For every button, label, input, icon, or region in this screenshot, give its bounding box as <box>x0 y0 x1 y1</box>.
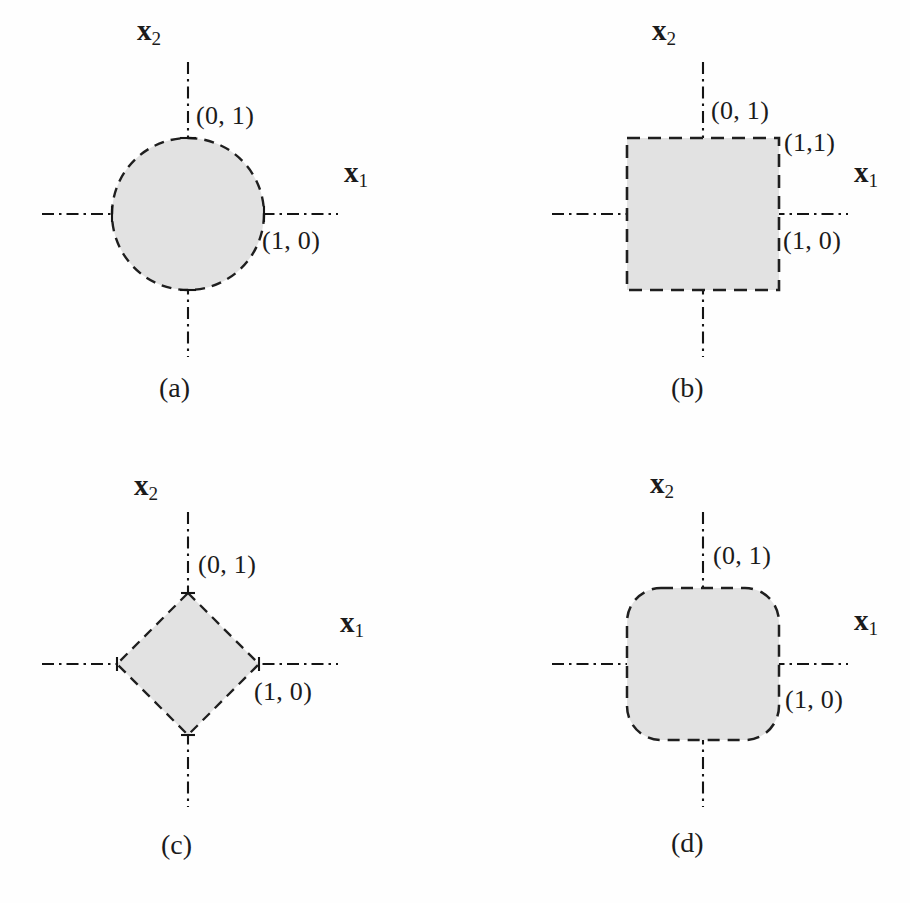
annotation-point-1-0: (1, 0) <box>785 687 843 713</box>
annotation-point-1-0: (1, 0) <box>783 228 841 254</box>
x-axis-label-text: x <box>340 606 355 638</box>
panel-c: x2 x1 (0, 1) (1, 0) (c) <box>0 451 455 903</box>
x-axis-label: x1 <box>854 606 878 638</box>
panel-c-plot <box>0 451 455 903</box>
panel-c-caption: (c) <box>161 831 192 859</box>
y-axis-label: x2 <box>652 16 676 48</box>
panel-b: x2 x1 (0, 1) (1,1) (1, 0) (b) <box>455 0 910 452</box>
annotation-point-1-1: (1,1) <box>784 130 835 156</box>
annotation-point-0-1: (0, 1) <box>196 103 254 129</box>
x-axis-label: x1 <box>340 608 364 640</box>
y-axis-label-text: x <box>652 14 667 46</box>
panel-a: x2 x1 (0, 1) (1, 0) (a) <box>0 0 455 452</box>
y-axis-label-subscript: 2 <box>665 481 675 502</box>
x-axis-label-text: x <box>854 156 869 188</box>
y-axis-label-text: x <box>650 467 665 499</box>
panel-b-caption: (b) <box>671 374 704 402</box>
panel-a-caption: (a) <box>159 374 190 402</box>
panel-d: x2 x1 (0, 1) (1, 0) (d) <box>455 451 910 903</box>
y-axis-label: x2 <box>650 469 674 501</box>
x-axis-label-text: x <box>344 156 359 188</box>
y-axis-label-subscript: 2 <box>667 28 677 49</box>
panel-d-caption: (d) <box>671 829 704 857</box>
x-axis-label-text: x <box>854 604 869 636</box>
y-axis-label-subscript: 2 <box>152 28 162 49</box>
x-axis-label: x1 <box>344 158 368 190</box>
y-axis-label-text: x <box>134 469 149 501</box>
unit-diamond-region <box>117 593 259 735</box>
x-axis-label-subscript: 1 <box>355 620 365 641</box>
unit-square-region <box>627 138 779 290</box>
panel-a-plot <box>0 0 455 452</box>
y-axis-label: x2 <box>134 471 158 503</box>
y-axis-label: x2 <box>137 16 161 48</box>
x-axis-label: x1 <box>854 158 878 190</box>
y-axis-label-text: x <box>137 14 152 46</box>
annotation-point-0-1: (0, 1) <box>198 552 256 578</box>
annotation-point-0-1: (0, 1) <box>713 543 771 569</box>
lp-norm-unit-balls-figure: x2 x1 (0, 1) (1, 0) (a) x2 x1 (0, 1) (1,… <box>0 0 910 903</box>
x-axis-label-subscript: 1 <box>869 618 879 639</box>
x-axis-label-subscript: 1 <box>359 170 369 191</box>
annotation-point-0-1: (0, 1) <box>711 98 769 124</box>
annotation-point-1-0: (1, 0) <box>254 679 312 705</box>
y-axis-label-subscript: 2 <box>149 483 159 504</box>
annotation-point-1-0: (1, 0) <box>262 228 320 254</box>
x-axis-label-subscript: 1 <box>869 170 879 191</box>
unit-circle-region <box>112 138 264 290</box>
superellipse-region <box>627 588 779 740</box>
